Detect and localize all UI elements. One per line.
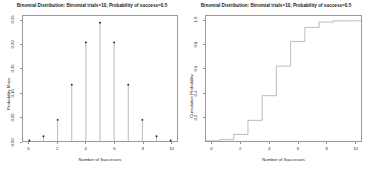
x-tick-label: 6 — [109, 146, 119, 151]
x-tick-label: 2 — [235, 146, 245, 151]
pmf-y-axis-label: Probability Mass — [6, 78, 12, 110]
x-tick-mark — [269, 142, 270, 144]
x-tick-label: 0 — [206, 146, 216, 151]
x-tick-label: 8 — [322, 146, 332, 151]
x-tick-mark — [211, 142, 212, 144]
x-tick-mark — [240, 142, 241, 144]
cdf-chart-title: Binomial Distribution: Binomial trials=1… — [184, 2, 368, 9]
cdf-plot-inner — [206, 16, 361, 141]
x-tick-label: 10 — [167, 146, 177, 151]
x-tick-mark — [57, 142, 58, 144]
y-tick-mark — [203, 44, 205, 45]
binomial-distribution-figure: Binomial Distribution: Binomial trials=1… — [0, 0, 368, 174]
x-tick-mark — [114, 142, 115, 144]
y-tick-label: 0.20 — [10, 37, 15, 51]
pmf-plot-area — [22, 15, 178, 142]
x-tick-mark — [326, 142, 327, 144]
y-tick-mark — [203, 20, 205, 21]
cdf-step-series — [206, 16, 361, 141]
x-tick-mark — [85, 142, 86, 144]
y-tick-label: 1.0 — [193, 13, 198, 27]
cdf-plot-area — [205, 15, 362, 142]
x-tick-label: 6 — [293, 146, 303, 151]
y-tick-mark — [20, 44, 22, 45]
x-tick-mark — [28, 142, 29, 144]
y-tick-mark — [20, 20, 22, 21]
y-tick-mark — [203, 68, 205, 69]
y-tick-mark — [203, 117, 205, 118]
cdf-y-axis-label: Cumulative Probability — [189, 74, 195, 118]
y-tick-label: 0.25 — [10, 13, 15, 27]
pmf-panel: Binomial Distribution: Binomial trials=1… — [0, 0, 184, 174]
pmf-chart-title: Binomial Distribution: Binomial trials=1… — [0, 2, 184, 9]
x-tick-label: 4 — [81, 146, 91, 151]
y-tick-mark — [20, 117, 22, 118]
y-tick-label: 0.00 — [10, 135, 15, 149]
y-tick-mark — [20, 93, 22, 94]
cdf-x-axis-label: Number of Successes — [205, 157, 362, 163]
x-tick-mark — [355, 142, 356, 144]
y-tick-mark — [203, 93, 205, 94]
x-tick-mark — [298, 142, 299, 144]
y-tick-label: 0.8 — [193, 37, 198, 51]
y-tick-mark — [20, 68, 22, 69]
y-tick-mark — [20, 142, 22, 143]
y-tick-label: 0.05 — [10, 111, 15, 125]
x-tick-mark — [171, 142, 172, 144]
x-tick-label: 2 — [52, 146, 62, 151]
pmf-x-axis-label: Number of Successes — [22, 157, 178, 163]
x-tick-mark — [143, 142, 144, 144]
x-tick-label: 4 — [264, 146, 274, 151]
y-tick-label: 0.15 — [10, 62, 15, 76]
x-tick-label: 0 — [23, 146, 33, 151]
pmf-stem-series — [23, 16, 177, 141]
cdf-panel: Binomial Distribution: Binomial trials=1… — [184, 0, 368, 174]
x-tick-label: 8 — [138, 146, 148, 151]
pmf-plot-inner — [23, 16, 177, 141]
x-tick-label: 10 — [351, 146, 361, 151]
